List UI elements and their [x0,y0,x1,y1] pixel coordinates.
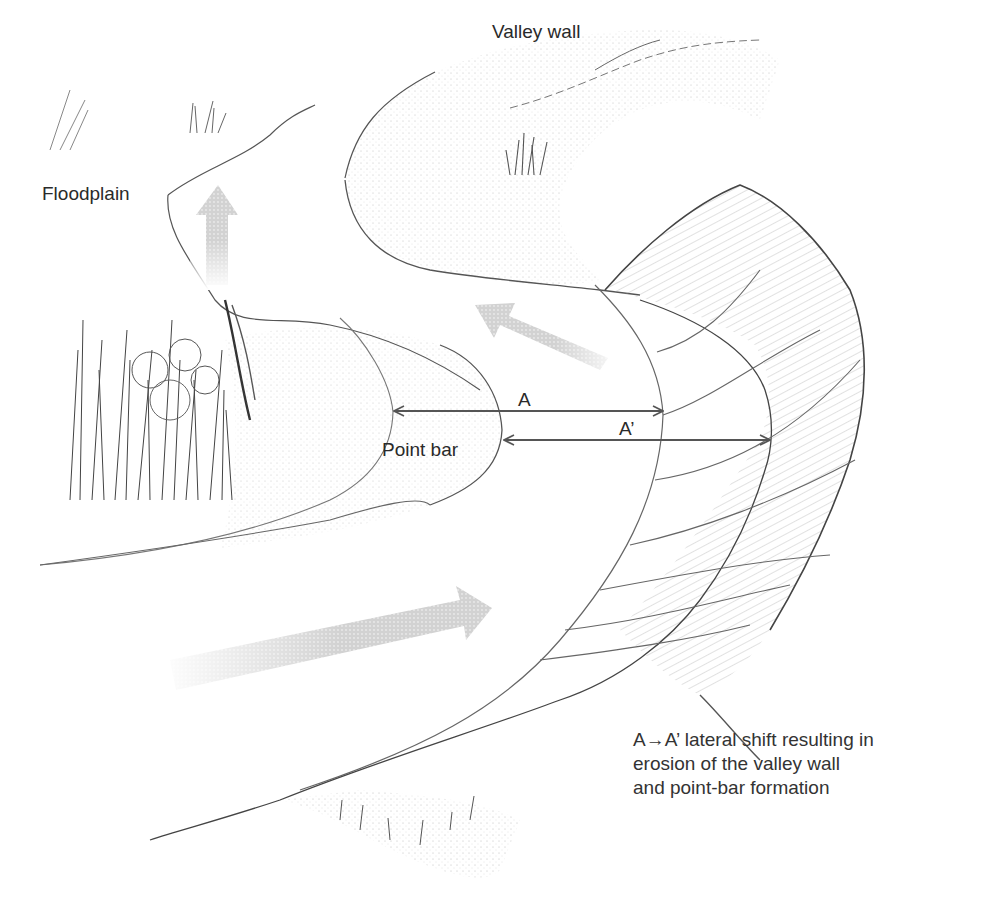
label-valley-wall: Valley wall [492,20,580,44]
label-floodplain: Floodplain [42,182,130,206]
caption-line-3: and point-bar formation [633,776,874,800]
label-point-bar: Point bar [382,438,458,462]
lower-flow-arrow [160,586,492,700]
label-a: A [518,388,531,412]
upper-flow-arrow [190,185,245,290]
caption-line-2: erosion of the valley wall [633,752,874,776]
caption-line-1: A→A’ lateral shift resulting in [633,728,874,752]
middle-flow-arrow [475,303,625,380]
figure-caption: A→A’ lateral shift resulting in erosion … [633,728,874,800]
vegetation-cluster [70,300,255,500]
point-bar-area [220,327,502,548]
label-a-prime: A’ [619,417,634,441]
